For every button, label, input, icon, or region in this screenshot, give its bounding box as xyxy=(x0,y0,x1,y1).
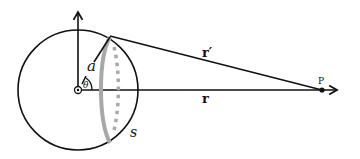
r-prime-vector xyxy=(110,36,322,90)
label-theta: θ xyxy=(83,80,89,90)
origin-dot xyxy=(77,89,79,91)
label-ring-s: s xyxy=(130,124,137,140)
sphere-diagram: a θ r′ r s P xyxy=(0,0,360,159)
label-r: r xyxy=(202,91,209,106)
label-radius-a: a xyxy=(87,57,96,75)
point-p-dot xyxy=(319,87,324,92)
label-point-p: P xyxy=(318,76,324,86)
label-r-prime: r′ xyxy=(202,45,213,60)
